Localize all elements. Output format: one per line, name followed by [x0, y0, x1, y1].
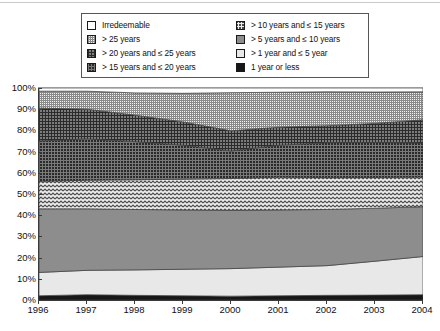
legend-swatch-y5_10-icon [236, 35, 245, 44]
x-axis-tick-mark [278, 300, 279, 304]
y-axis-tick-label: 90% [2, 104, 36, 114]
y-axis-tick-label: 30% [2, 231, 36, 241]
x-axis-tick-mark [374, 300, 375, 304]
x-axis-tick-label: 2002 [315, 304, 336, 315]
y-axis-tick-label: 100% [2, 83, 36, 93]
y-axis-tick-mark [38, 194, 42, 195]
y-axis-tick-label: 10% [2, 274, 36, 284]
x-axis-tick-label: 1999 [171, 304, 192, 315]
legend-swatch-over_25-icon [87, 35, 96, 44]
legend-label-y20_25: > 20 years and ≤ 25 years [102, 48, 196, 58]
y-axis-tick-mark [38, 88, 42, 89]
legend-column-left: Irredeemable> 25 years> 20 years and ≤ 2… [87, 18, 236, 74]
legend-item-y10_15[interactable]: > 10 years and ≤ 15 years [236, 18, 363, 32]
y-axis-tick-label: 70% [2, 147, 36, 157]
x-axis-tick-label: 2004 [411, 304, 432, 315]
x-axis-tick-mark [230, 300, 231, 304]
y-axis-tick-label: 60% [2, 168, 36, 178]
y-axis-tick-mark [38, 130, 42, 131]
y-axis-tick-mark [38, 215, 42, 216]
y-axis: 0%10%20%30%40%50%60%70%80%90%100% [0, 88, 36, 300]
area-band-y10_15 [39, 177, 423, 210]
legend-item-irredeemable[interactable]: Irredeemable [87, 18, 236, 32]
stacked-area-plot [38, 88, 423, 301]
legend-swatch-y1_or_less-icon [236, 63, 245, 72]
x-axis-tick-label: 1998 [123, 304, 144, 315]
legend-swatch-irredeemable-icon [87, 21, 96, 30]
legend-swatch-y10_15-icon [236, 21, 245, 30]
y-axis-tick-label: 80% [2, 125, 36, 135]
x-axis-tick-label: 2001 [267, 304, 288, 315]
page-top-divider [0, 2, 440, 3]
legend-label-y10_15: > 10 years and ≤ 15 years [251, 20, 345, 30]
y-axis-tick-mark [38, 300, 42, 301]
x-axis-tick-mark [422, 300, 423, 304]
y-axis-tick-label: 40% [2, 210, 36, 220]
legend-swatch-y15_20-icon [87, 63, 96, 72]
legend-item-y15_20[interactable]: > 15 years and ≤ 20 years [87, 60, 236, 74]
stacked-area-svg [39, 88, 423, 300]
x-axis-tick-label: 2000 [219, 304, 240, 315]
legend-item-y20_25[interactable]: > 20 years and ≤ 25 years [87, 46, 236, 60]
x-axis-tick-mark [86, 300, 87, 304]
legend-label-irredeemable: Irredeemable [102, 20, 150, 30]
y-axis-tick-mark [38, 258, 42, 259]
x-axis-tick-label: 1997 [75, 304, 96, 315]
x-axis-tick-mark [182, 300, 183, 304]
legend-swatch-y20_25-icon [87, 49, 96, 58]
legend-swatch-y1_5-icon [236, 49, 245, 58]
y-axis-tick-mark [38, 236, 42, 237]
x-axis-tick-label: 1996 [27, 304, 48, 315]
legend-label-y1_or_less: 1 year or less [251, 62, 299, 72]
y-axis-tick-label: 20% [2, 253, 36, 263]
legend-label-y1_5: > 1 year and ≤ 5 year [251, 48, 327, 58]
chart-legend: Irredeemable> 25 years> 20 years and ≤ 2… [81, 13, 369, 78]
legend-label-over_25: > 25 years [102, 34, 140, 44]
legend-item-over_25[interactable]: > 25 years [87, 32, 236, 46]
x-axis-tick-mark [326, 300, 327, 304]
legend-item-y1_or_less[interactable]: 1 year or less [236, 60, 363, 74]
legend-label-y5_10: > 5 years and ≤ 10 years [251, 34, 340, 44]
x-axis: 199619971998199920002001200220032004 [38, 304, 423, 322]
legend-column-right: > 10 years and ≤ 15 years> 5 years and ≤… [236, 18, 363, 74]
y-axis-tick-mark [38, 109, 42, 110]
y-axis-tick-mark [38, 279, 42, 280]
y-axis-tick-label: 50% [2, 189, 36, 199]
x-axis-tick-label: 2003 [363, 304, 384, 315]
legend-label-y15_20: > 15 years and ≤ 20 years [102, 62, 196, 72]
y-axis-tick-mark [38, 152, 42, 153]
x-axis-tick-mark [134, 300, 135, 304]
legend-item-y5_10[interactable]: > 5 years and ≤ 10 years [236, 32, 363, 46]
chart-plot-wrapper: 0%10%20%30%40%50%60%70%80%90%100% 199619… [0, 84, 440, 331]
y-axis-tick-mark [38, 173, 42, 174]
legend-item-y1_5[interactable]: > 1 year and ≤ 5 year [236, 46, 363, 60]
